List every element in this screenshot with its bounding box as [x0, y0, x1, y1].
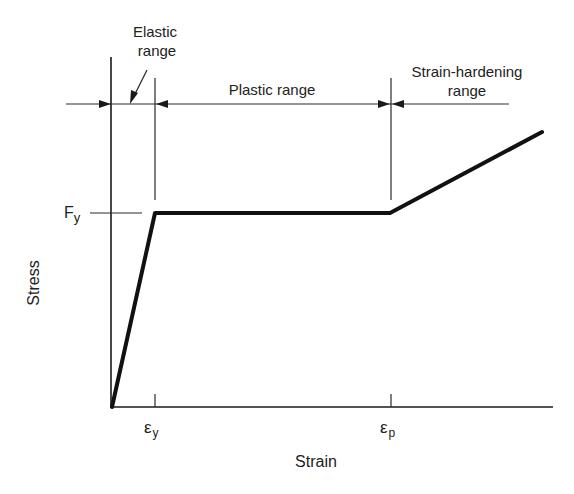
hardening-strain-symbol: ε	[380, 418, 388, 437]
yield-stress-subscript: y	[74, 210, 81, 225]
elastic-range-label: Elastic	[133, 23, 178, 40]
plastic-range-label: Plastic range	[229, 81, 316, 98]
yield-strain-label: εy	[144, 418, 159, 440]
yield-stress-label: Fy	[64, 204, 81, 225]
hardening-strain-label: εp	[380, 418, 396, 440]
arrowhead-left-icon	[156, 100, 168, 108]
yield-stress-symbol: F	[64, 204, 74, 221]
hardening-strain-subscript: p	[389, 426, 396, 440]
yield-strain-symbol: ε	[144, 418, 152, 437]
arrowhead-right-icon	[378, 100, 390, 108]
x-axis-label: Strain	[295, 453, 337, 470]
stress-strain-curve	[112, 132, 542, 407]
arrowhead-right-icon	[99, 100, 111, 108]
arrowhead-down-icon	[130, 90, 138, 104]
y-axis-label: Stress	[25, 260, 42, 305]
yield-strain-subscript: y	[153, 426, 159, 440]
stress-strain-diagram: Elastic range Plastic range Strain-harde…	[0, 0, 574, 494]
strain-hardening-range-label-line2: range	[448, 82, 486, 99]
strain-hardening-range-label: Strain-hardening	[412, 63, 523, 80]
elastic-range-label-line2: range	[138, 42, 176, 59]
arrowhead-left-icon	[392, 100, 404, 108]
